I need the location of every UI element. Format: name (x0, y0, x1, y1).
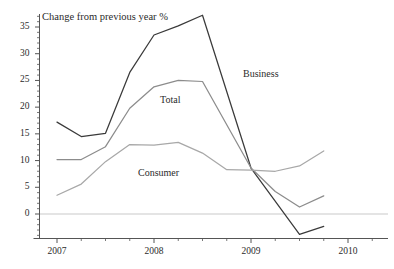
series-label-business: Business (243, 69, 279, 79)
y-tick-label: 10 (10, 156, 30, 166)
x-tick-label: 2008 (134, 247, 174, 257)
y-tick-label: 0 (10, 209, 30, 219)
line-chart: Change from previous year % Business Tot… (0, 0, 394, 269)
series-label-consumer: Consumer (138, 168, 179, 178)
series-line-consumer (57, 142, 324, 195)
chart-plot-area (0, 0, 394, 269)
y-tick-label: 30 (10, 49, 30, 59)
x-tick-label: 2010 (328, 247, 368, 257)
y-tick-label: 15 (10, 129, 30, 139)
chart-title: Change from previous year % (42, 12, 168, 23)
x-tick-label: 2009 (231, 247, 271, 257)
y-tick-label: 5 (10, 182, 30, 192)
x-tick-label: 2007 (37, 247, 77, 257)
y-tick-label: 25 (10, 75, 30, 85)
y-tick-label: 35 (10, 22, 30, 32)
series-line-business (57, 15, 324, 234)
series-label-total: Total (160, 95, 180, 105)
series-line-total (57, 80, 324, 207)
y-tick-label: 20 (10, 102, 30, 112)
